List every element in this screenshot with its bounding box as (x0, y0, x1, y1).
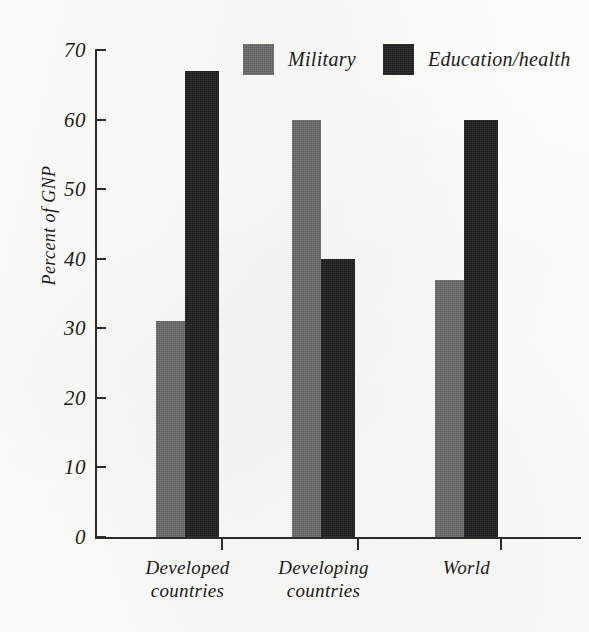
dark-swatch-icon (383, 44, 414, 75)
chart-legend: Military Education/health (243, 44, 571, 75)
category-label-2: World (377, 556, 557, 579)
bar-education-health-2 (464, 120, 498, 537)
bar-military-1 (292, 120, 321, 537)
category-label-line-1-1: countries (234, 579, 414, 602)
y-tick-label-50: 50 (64, 177, 86, 202)
bar-military-0 (156, 321, 185, 537)
gray-swatch-icon (243, 44, 274, 75)
y-tick-label-70: 70 (64, 38, 86, 63)
bar-chart-figure: Percent of GNP 706050403020100 Developed… (0, 0, 589, 632)
y-axis-title: Percent of GNP (39, 166, 60, 286)
bar-military-2 (435, 280, 464, 537)
legend-label-education-health: Education/health (428, 48, 571, 71)
y-tick-label-60: 60 (64, 107, 86, 132)
y-tick-label-10: 10 (64, 455, 86, 480)
legend-item-education-health[interactable]: Education/health (383, 44, 571, 75)
y-tick-label-40: 40 (64, 246, 86, 271)
y-tick-label-20: 20 (64, 385, 86, 410)
x-axis-line (95, 537, 581, 539)
x-tick-1 (357, 537, 359, 550)
bar-education-health-1 (321, 259, 355, 537)
legend-item-military[interactable]: Military (243, 44, 356, 75)
category-label-line-2-0: World (377, 556, 557, 579)
x-tick-2 (500, 537, 502, 550)
bar-education-health-0 (185, 71, 219, 537)
y-tick-label-0: 0 (75, 525, 86, 550)
x-tick-0 (221, 537, 223, 550)
legend-label-military: Military (288, 48, 356, 71)
y-tick-label-30: 30 (64, 316, 86, 341)
plot-area (95, 50, 580, 537)
